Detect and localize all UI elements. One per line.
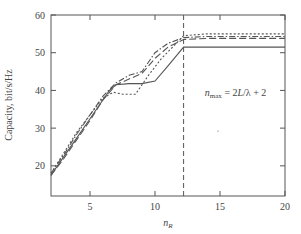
x-axis-label: nR: [163, 217, 173, 230]
series-dash-dot: [51, 37, 285, 174]
x-tick-label: 10: [150, 201, 160, 212]
y-tick-label: 60: [35, 10, 45, 21]
plot-axes: 20304050605101520: [35, 10, 290, 213]
series-solid: [51, 47, 285, 175]
series-long-dash: [51, 38, 285, 175]
y-tick-label: 30: [35, 123, 45, 134]
y-tick-label: 40: [35, 85, 45, 96]
capacity-chart: 20304050605101520 nmax = 2L/λ + 2 Capaci…: [0, 0, 301, 234]
x-tick-label: 5: [88, 201, 93, 212]
stray-dot: [217, 130, 218, 131]
x-tick-label: 20: [280, 201, 290, 212]
annotations: nmax = 2L/λ + 2: [184, 15, 267, 196]
y-tick-label: 50: [35, 47, 45, 58]
y-tick-label: 20: [35, 160, 45, 171]
series-dotted: [51, 34, 285, 174]
n-max-annotation: nmax = 2L/λ + 2: [205, 87, 267, 100]
x-tick-label: 15: [215, 201, 225, 212]
data-series: [51, 34, 285, 175]
y-axis-label: Capacity, bit/s/Hz: [3, 69, 14, 141]
plot-frame: [51, 15, 285, 196]
